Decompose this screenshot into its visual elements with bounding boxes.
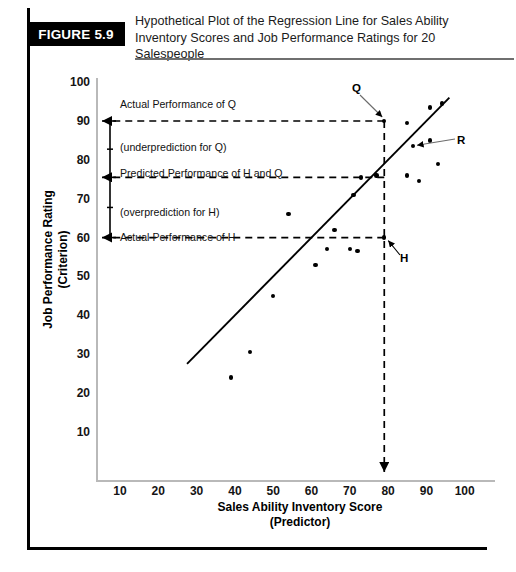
annotation-underprediction-q: (underprediction for Q) <box>120 141 227 153</box>
annotation-actual-performance-h: Actual Performance of H <box>120 231 235 243</box>
chart-plot-area: 102030405060708090100 102030405060708090… <box>0 0 516 572</box>
annotation-overprediction-h: (overprediction for H) <box>120 206 220 218</box>
figure-root: FIGURE 5.9 Hypothetical Plot of the Regr… <box>0 0 516 572</box>
x-axis-title: Sales Ability Inventory Score (Predictor… <box>160 500 440 529</box>
chart-overlay <box>0 0 516 572</box>
y-axis-title: Job Performance Rating (Criterion) <box>41 160 70 360</box>
y-axis-title-sub: (Criterion) <box>55 160 70 360</box>
point-label-q: Q <box>352 82 361 94</box>
leader-arrow-r <box>417 139 455 145</box>
x-axis-title-main: Sales Ability Inventory Score <box>160 500 440 515</box>
point-label-r: R <box>457 134 465 146</box>
annotation-actual-performance-q: Actual Performance of Q <box>120 98 236 110</box>
x-axis-title-sub: (Predictor) <box>160 515 440 530</box>
leader-arrow-h <box>388 241 400 255</box>
y-axis-title-main: Job Performance Rating <box>41 160 56 360</box>
point-label-h: H <box>400 252 408 264</box>
annotation-predicted-performance-hq: Predicted Performance of H and Q <box>120 167 283 179</box>
leader-arrow-q <box>360 95 382 117</box>
